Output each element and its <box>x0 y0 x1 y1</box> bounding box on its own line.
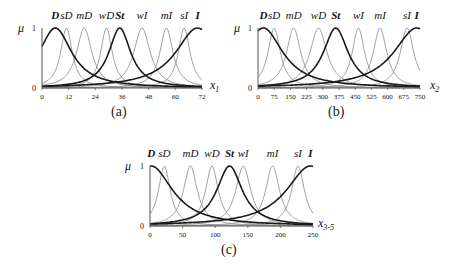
x-tick-label: 750 <box>415 93 426 101</box>
term-label-sD: sD <box>158 147 170 159</box>
chart-2: sDmDwDwImIsIDStI075150225300375450525600… <box>233 9 439 101</box>
curve-sI <box>42 28 202 88</box>
x-axis-label: x2 <box>429 78 439 94</box>
curve-St <box>258 28 420 86</box>
chart-1: sDmDwDwImIsIDStI012243648607210μx1 <box>17 9 219 101</box>
term-label-mD: mD <box>76 9 92 21</box>
curve-wI <box>258 28 420 88</box>
y-axis-label: μ <box>233 21 240 35</box>
x-tick-label: 60 <box>172 93 180 101</box>
term-label-wI: wI <box>238 147 250 159</box>
y-tick-label-1: 1 <box>248 24 252 33</box>
x-tick-label: 225 <box>301 93 312 101</box>
term-label-sI: sI <box>294 147 303 159</box>
term-label-wI: wI <box>137 9 149 21</box>
x-tick-label: 100 <box>210 231 221 239</box>
curve-wD <box>42 28 202 87</box>
curve-St <box>150 166 313 224</box>
term-label-mI: mI <box>374 9 387 21</box>
x-axis-label: x1 <box>209 78 219 94</box>
curve-sI <box>258 28 420 88</box>
x-tick-label: 0 <box>40 93 44 101</box>
term-label-mI: mI <box>161 9 174 21</box>
curve-I <box>150 166 313 224</box>
term-label-D: D <box>50 9 59 21</box>
term-label-St: St <box>331 9 341 21</box>
curve-D <box>150 166 313 225</box>
x-tick-label: 250 <box>308 231 319 239</box>
x-tick-label: 50 <box>179 231 187 239</box>
membership-function-charts: sDmDwDwImIsIDStI012243648607210μx1sDmDwD… <box>0 0 456 267</box>
term-label-I: I <box>414 9 420 21</box>
term-label-wD: wD <box>204 147 219 159</box>
term-label-sD: sD <box>60 9 72 21</box>
curve-wI <box>150 166 313 225</box>
x-tick-label: 375 <box>334 93 345 101</box>
term-label-I: I <box>194 9 200 21</box>
x-axis-label: x3-5 <box>317 216 334 232</box>
curve-mI <box>42 28 202 88</box>
curve-wD <box>258 28 420 87</box>
term-label-D: D <box>146 147 155 159</box>
x-tick-label: 75 <box>271 93 279 101</box>
term-label-St: St <box>225 147 235 159</box>
curve-I <box>258 28 420 86</box>
x-tick-label: 525 <box>366 93 377 101</box>
term-label-D: D <box>258 9 267 21</box>
term-label-mI: mI <box>267 147 280 159</box>
term-label-wD: wD <box>99 9 114 21</box>
curve-wI <box>42 28 202 87</box>
x-tick-label: 200 <box>275 231 286 239</box>
x-tick-label: 72 <box>199 93 207 101</box>
x-tick-label: 300 <box>318 93 329 101</box>
curve-mD <box>150 166 313 226</box>
x-tick-label: 0 <box>256 93 260 101</box>
curve-D <box>258 28 420 87</box>
term-label-sD: sD <box>268 9 280 21</box>
curve-sD <box>258 28 420 88</box>
curve-mD <box>42 28 202 88</box>
x-tick-label: 150 <box>243 231 254 239</box>
term-label-sI: sI <box>180 9 189 21</box>
y-axis-label: μ <box>17 21 24 35</box>
y-tick-label-0: 0 <box>140 222 144 231</box>
x-tick-label: 48 <box>145 93 153 101</box>
curve-sI <box>150 166 313 226</box>
term-label-mD: mD <box>286 9 302 21</box>
term-label-sI: sI <box>403 9 412 21</box>
term-label-wI: wI <box>353 9 365 21</box>
term-label-wD: wD <box>311 9 326 21</box>
x-tick-label: 150 <box>285 93 296 101</box>
chart-3: sDmDwDwImIsIDStI05010015020025010μx3-5 <box>124 147 334 239</box>
x-tick-label: 36 <box>119 93 127 101</box>
curve-sD <box>42 28 202 88</box>
y-tick-label-0: 0 <box>32 84 36 93</box>
curve-mI <box>258 28 420 87</box>
y-tick-label-1: 1 <box>32 24 36 33</box>
x-tick-label: 12 <box>65 93 73 101</box>
y-tick-label-1: 1 <box>140 162 144 171</box>
curve-sD <box>150 166 313 226</box>
x-tick-label: 450 <box>350 93 361 101</box>
curve-mD <box>258 28 420 88</box>
curve-mI <box>150 166 313 226</box>
x-tick-label: 24 <box>92 93 100 101</box>
term-label-I: I <box>307 147 313 159</box>
term-label-St: St <box>115 9 125 21</box>
y-axis-label: μ <box>124 159 131 173</box>
x-tick-label: 0 <box>148 231 152 239</box>
term-label-mD: mD <box>182 147 198 159</box>
x-tick-label: 600 <box>382 93 393 101</box>
y-tick-label-0: 0 <box>248 84 252 93</box>
curve-wD <box>150 166 313 226</box>
x-tick-label: 675 <box>399 93 410 101</box>
